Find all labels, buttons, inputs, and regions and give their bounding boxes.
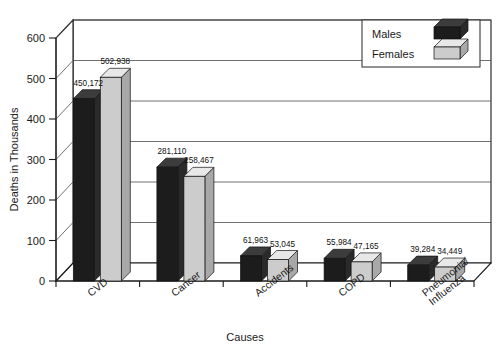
x-axis-title: Causes [226,331,264,343]
bar-males-0 [73,90,103,281]
bar-front [100,77,121,281]
bar-front [241,256,262,281]
chart-canvas: 0100200300400500600Deaths in Thousands45… [0,0,498,350]
bar-front [73,99,94,281]
value-label-females-2: 53,045 [270,240,295,249]
y-tick-label-500: 500 [27,73,45,85]
bar-males-1 [157,158,187,281]
value-label-males-3: 55,984 [327,238,352,247]
value-label-males-4: 39,284 [410,245,435,254]
legend-swatch-front [434,47,460,59]
legend-swatch-front [434,27,460,39]
value-label-males-0: 450,172 [73,79,103,88]
bar-front [324,258,345,281]
bar-chart: 0100200300400500600Deaths in Thousands45… [0,0,498,350]
bar-males-3 [324,249,354,281]
y-tick-label-0: 0 [39,275,45,287]
y-tick-label-200: 200 [27,194,45,206]
y-axis-title: Deaths in Thousands [8,107,20,211]
bar-males-2 [241,247,271,281]
y-tick-label-600: 600 [27,32,45,44]
bar-females-1 [184,167,214,281]
value-label-females-4: 34,449 [437,247,462,256]
legend-item-males[interactable] [434,19,468,39]
value-label-males-2: 61,963 [243,236,268,245]
legend-label-males: Males [372,28,402,40]
value-label-males-1: 281,110 [157,147,186,156]
bar-females-0 [100,68,130,281]
y-tick-label-400: 400 [27,113,45,125]
value-label-females-3: 47,165 [354,242,379,251]
bar-front [408,265,429,281]
bar-side [205,167,214,281]
bar-front [157,167,178,281]
bar-front [184,176,205,281]
value-label-females-1: 258,467 [184,156,214,165]
value-label-females-0: 502,938 [100,57,130,66]
y-tick-label-100: 100 [27,235,45,247]
bar-side [121,68,130,281]
y-tick-label-300: 300 [27,154,45,166]
legend-item-females[interactable] [434,39,468,59]
legend-label-females: Females [372,48,415,60]
